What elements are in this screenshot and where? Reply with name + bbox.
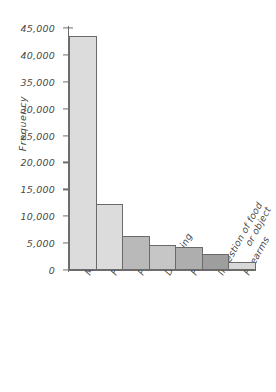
y-axis-tick-label: 35,000 [21, 76, 55, 87]
bar [122, 236, 150, 270]
y-axis-tick-label: 15,000 [21, 184, 55, 195]
bar [228, 262, 256, 270]
bar [149, 245, 177, 270]
y-axis-tick-label: 40,000 [21, 49, 55, 60]
y-axis-tick-label: 20,000 [21, 157, 55, 168]
y-axis-tick-label: 5,000 [27, 238, 55, 249]
y-axis-tick-label: 25,000 [21, 130, 55, 141]
frequency-bar-chart: Frequency 05,00010,00015,00020,00025,000… [0, 0, 276, 392]
y-axis-tick-label: 0 [49, 265, 55, 276]
plot-area [69, 28, 255, 270]
y-axis-tick-mark [63, 27, 73, 28]
y-axis-tick-label: 45,000 [21, 23, 55, 34]
bar [202, 254, 230, 270]
x-axis-category-labels: Motor vehicleFallsPoisonDrowningFireInge… [69, 272, 269, 390]
bar [69, 36, 97, 270]
y-axis-tick-label: 10,000 [21, 211, 55, 222]
y-axis-tick-label: 30,000 [21, 103, 55, 114]
y-axis-tick-labels: 05,00010,00015,00020,00025,00030,00035,0… [0, 28, 61, 270]
bar [175, 247, 203, 270]
bar [96, 204, 124, 270]
